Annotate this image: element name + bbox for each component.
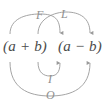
left-binomial: (a + b) [3, 38, 47, 54]
arc-label-last: L [61, 8, 68, 20]
arc-first [10, 14, 60, 34]
right-binomial: (a − b) [58, 38, 102, 54]
arc-label-first: F [36, 9, 43, 21]
arc-label-inner: I [48, 73, 52, 85]
binomial-expression: (a + b) (a − b) [0, 38, 105, 55]
arc-label-outer: O [46, 89, 55, 101]
foil-method-diagram: (a + b) (a − b) F L I O [0, 0, 105, 107]
